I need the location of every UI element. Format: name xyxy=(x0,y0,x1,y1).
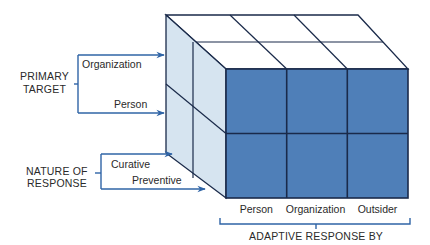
adaptive-response-by-group: Person Organization Outsider ADAPTIVE RE… xyxy=(220,203,410,242)
nature-of-response-title-line1: NATURE OF xyxy=(26,165,88,177)
adaptive-response-option-outsider: Outsider xyxy=(358,203,398,215)
nature-of-response-title-line2: RESPONSE xyxy=(27,177,87,189)
primary-target-option-organization: Organization xyxy=(82,58,142,70)
adaptive-response-option-person: Person xyxy=(240,203,273,215)
primary-target-group: PRIMARY TARGET Organization Person xyxy=(20,55,164,113)
adaptive-response-bracket-line xyxy=(220,218,410,224)
adaptive-response-cube-diagram: PRIMARY TARGET Organization Person NATUR… xyxy=(0,0,430,245)
nature-of-response-option-preventive: Preventive xyxy=(132,174,182,186)
primary-target-option-person: Person xyxy=(114,98,147,110)
primary-target-title-line1: PRIMARY xyxy=(20,70,69,82)
primary-target-title-line2: TARGET xyxy=(23,83,66,95)
adaptive-response-bracket xyxy=(220,218,410,229)
nature-of-response-option-curative: Curative xyxy=(111,158,150,170)
cube xyxy=(166,15,408,198)
adaptive-response-option-organization: Organization xyxy=(286,203,346,215)
adaptive-response-title: ADAPTIVE RESPONSE BY xyxy=(249,230,383,242)
